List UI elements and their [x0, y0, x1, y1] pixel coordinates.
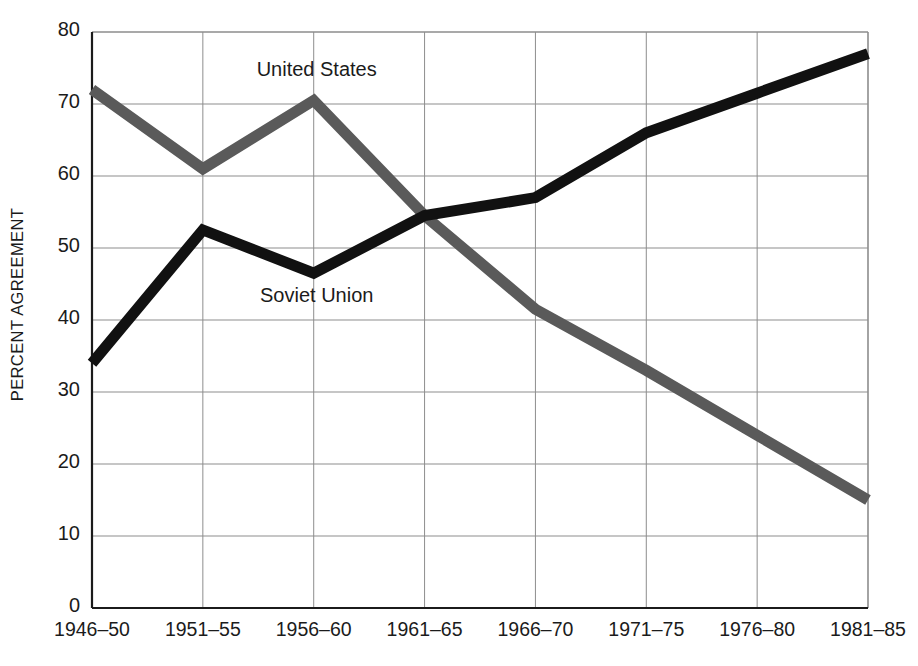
- x-tick-label: 1981–85: [813, 618, 918, 641]
- x-tick-label: 1976–80: [702, 618, 812, 641]
- y-tick-label: 60: [34, 162, 80, 185]
- y-tick-label: 10: [34, 522, 80, 545]
- series-line-soviet-union: [92, 54, 868, 364]
- y-tick-label: 50: [34, 234, 80, 257]
- y-tick-label: 80: [34, 18, 80, 41]
- y-tick-label: 70: [34, 90, 80, 113]
- chart-plot-area: [0, 0, 918, 666]
- chart-container: PERCENT AGREEMENT 80706050403020100 1946…: [0, 0, 918, 666]
- series-label-united-states: United States: [242, 58, 392, 81]
- y-tick-label: 0: [34, 594, 80, 617]
- series-lines-group: [92, 54, 868, 500]
- x-tick-label: 1956–60: [259, 618, 369, 641]
- x-tick-label: 1946–50: [37, 618, 147, 641]
- y-tick-label: 30: [34, 378, 80, 401]
- y-tick-label: 40: [34, 306, 80, 329]
- series-label-soviet-union: Soviet Union: [242, 284, 392, 307]
- x-tick-label: 1971–75: [591, 618, 701, 641]
- x-tick-label: 1966–70: [480, 618, 590, 641]
- series-line-united-states: [92, 90, 868, 500]
- x-tick-label: 1961–65: [370, 618, 480, 641]
- gridlines-group: [92, 32, 868, 608]
- y-tick-label: 20: [34, 450, 80, 473]
- x-tick-label: 1951–55: [148, 618, 258, 641]
